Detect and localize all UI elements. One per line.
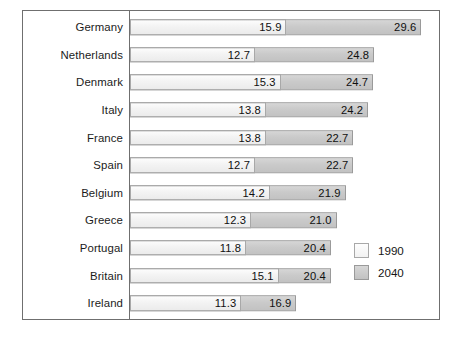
bar-row: Spain22.712.7 (23, 153, 439, 178)
legend-label-2040: 2040 (378, 266, 404, 279)
value-label-1990-spain: 12.7 (223, 159, 250, 171)
category-label-germany: Germany (23, 21, 123, 33)
bars-area: 24.715.3 (130, 70, 439, 95)
value-label-2040-germany: 29.6 (389, 21, 416, 33)
value-label-1990-france: 13.8 (234, 132, 261, 144)
legend-label-1990: 1990 (378, 244, 404, 257)
value-label-2040-france: 22.7 (321, 132, 348, 144)
bars-area: 21.914.2 (130, 180, 439, 205)
chart-legend: 1990 2040 (354, 239, 444, 283)
value-label-1990-belgium: 14.2 (238, 187, 265, 199)
value-label-1990-italy: 13.8 (234, 104, 261, 116)
bar-chart: Germany29.615.9Netherlands24.812.7Denmar… (0, 0, 456, 340)
value-label-1990-denmark: 15.3 (249, 76, 276, 88)
bars-area: 16.911.3 (130, 291, 439, 316)
legend-swatch-2040-icon (354, 265, 369, 280)
bars-area: 29.615.9 (130, 15, 439, 40)
bar-row: France22.713.8 (23, 125, 439, 150)
category-label-spain: Spain (23, 159, 123, 171)
bar-row: Germany29.615.9 (23, 15, 439, 40)
value-label-2040-greece: 21.0 (305, 214, 332, 226)
bars-area: 21.012.3 (130, 208, 439, 233)
category-label-portugal: Portugal (23, 242, 123, 254)
value-label-2040-britain: 20.4 (299, 270, 326, 282)
category-label-netherlands: Netherlands (23, 49, 123, 61)
value-label-2040-italy: 24.2 (336, 104, 363, 116)
value-label-1990-ireland: 11.3 (209, 297, 236, 309)
bar-row: Ireland16.911.3 (23, 291, 439, 316)
legend-swatch-1990-icon (354, 243, 369, 258)
value-label-2040-ireland: 16.9 (264, 297, 291, 309)
value-label-1990-portugal: 11.8 (214, 242, 241, 254)
plot-frame: Germany29.615.9Netherlands24.812.7Denmar… (22, 10, 440, 320)
value-label-2040-spain: 22.7 (321, 159, 348, 171)
bars-area: 24.213.8 (130, 97, 439, 122)
bar-row: Italy24.213.8 (23, 97, 439, 122)
value-label-2040-portugal: 20.4 (299, 242, 326, 254)
bar-row: Denmark24.715.3 (23, 70, 439, 95)
value-label-1990-germany: 15.9 (254, 21, 281, 33)
category-label-france: France (23, 132, 123, 144)
value-label-2040-belgium: 21.9 (314, 187, 341, 199)
category-label-italy: Italy (23, 104, 123, 116)
category-label-britain: Britain (23, 270, 123, 282)
category-label-belgium: Belgium (23, 187, 123, 199)
category-label-ireland: Ireland (23, 297, 123, 309)
bars-area: 22.712.7 (130, 153, 439, 178)
legend-item-1990: 1990 (354, 239, 444, 261)
legend-item-2040: 2040 (354, 261, 444, 283)
value-label-1990-netherlands: 12.7 (223, 49, 250, 61)
bars-area: 22.713.8 (130, 125, 439, 150)
category-label-denmark: Denmark (23, 76, 123, 88)
value-label-2040-netherlands: 24.8 (342, 49, 369, 61)
value-label-1990-greece: 12.3 (219, 214, 246, 226)
bar-row: Netherlands24.812.7 (23, 42, 439, 67)
bar-row: Greece21.012.3 (23, 208, 439, 233)
bars-area: 24.812.7 (130, 42, 439, 67)
value-label-1990-britain: 15.1 (247, 270, 274, 282)
bar-row: Belgium21.914.2 (23, 180, 439, 205)
value-label-2040-denmark: 24.7 (341, 76, 368, 88)
category-label-greece: Greece (23, 214, 123, 226)
